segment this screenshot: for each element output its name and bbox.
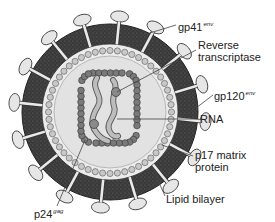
p17-bead bbox=[47, 124, 53, 130]
p24-bead bbox=[78, 87, 85, 94]
p17-bead bbox=[78, 163, 84, 169]
p17-bead bbox=[92, 49, 98, 55]
p17-bead bbox=[158, 144, 164, 150]
virion-illustration bbox=[0, 0, 275, 222]
p17-bead bbox=[153, 150, 159, 156]
p24-bead bbox=[93, 140, 100, 147]
p17-bead bbox=[66, 63, 72, 69]
p24-bead bbox=[85, 71, 92, 78]
p17-bead bbox=[61, 150, 67, 156]
p17-bead bbox=[56, 144, 62, 150]
p24-bead bbox=[119, 70, 126, 77]
p17-bead bbox=[164, 87, 170, 93]
p17-bead bbox=[47, 94, 53, 100]
reverse-transcriptase-molecule bbox=[90, 120, 99, 129]
p17-bead bbox=[72, 58, 78, 64]
p17-bead bbox=[52, 80, 58, 86]
reverse-transcriptase-molecule bbox=[112, 88, 121, 97]
label-lipid-bilayer: Lipid bilayer bbox=[166, 193, 225, 205]
p17-bead bbox=[129, 51, 135, 57]
p17-bead bbox=[45, 109, 51, 115]
p17-bead bbox=[164, 131, 170, 137]
label-reverse-transcriptase: Reverse transcriptase bbox=[198, 39, 261, 63]
gp120-knob bbox=[110, 10, 129, 23]
gp120-knob bbox=[91, 201, 110, 214]
p17-bead bbox=[46, 101, 52, 107]
p17-bead bbox=[168, 116, 174, 122]
p17-bead bbox=[85, 166, 91, 172]
p24-bead bbox=[134, 122, 141, 129]
p17-bead bbox=[99, 170, 105, 176]
p17-bead bbox=[161, 137, 167, 143]
p17-bead bbox=[167, 94, 173, 100]
p17-bead bbox=[168, 109, 174, 115]
p17-bead bbox=[129, 166, 135, 172]
p17-bead bbox=[49, 131, 55, 137]
p17-bead bbox=[122, 169, 128, 175]
p17-bead bbox=[99, 48, 105, 54]
gp120-knob bbox=[8, 93, 21, 112]
p17-bead bbox=[61, 68, 67, 74]
p17-bead bbox=[142, 58, 148, 64]
label-p17-matrix-protein: p17 matrix protein bbox=[195, 149, 246, 173]
p17-bead bbox=[148, 155, 154, 161]
p17-bead bbox=[122, 49, 128, 55]
p17-bead bbox=[114, 170, 120, 176]
p17-bead bbox=[135, 54, 141, 60]
p17-bead bbox=[107, 47, 113, 53]
p17-bead bbox=[46, 116, 52, 122]
hiv-diagram: gp41env Reverse transcriptase gp120env R… bbox=[0, 0, 275, 222]
p17-bead bbox=[142, 160, 148, 166]
p17-bead bbox=[85, 51, 91, 57]
p17-bead bbox=[92, 169, 98, 175]
p17-bead bbox=[66, 155, 72, 161]
label-gp120: gp120env bbox=[214, 87, 255, 102]
label-rna: RNA bbox=[200, 113, 223, 125]
p17-bead bbox=[78, 54, 84, 60]
p17-bead bbox=[167, 124, 173, 130]
p17-bead bbox=[114, 48, 120, 54]
p17-bead bbox=[135, 163, 141, 169]
p17-bead bbox=[158, 74, 164, 80]
p17-bead bbox=[161, 80, 167, 86]
p17-bead bbox=[49, 87, 55, 93]
p17-bead bbox=[107, 170, 113, 176]
p17-bead bbox=[52, 137, 58, 143]
p17-bead bbox=[168, 101, 174, 107]
p17-bead bbox=[56, 74, 62, 80]
label-p24: p24gag bbox=[34, 205, 63, 220]
label-gp41: gp41env bbox=[178, 18, 213, 33]
p17-bead bbox=[148, 63, 154, 69]
